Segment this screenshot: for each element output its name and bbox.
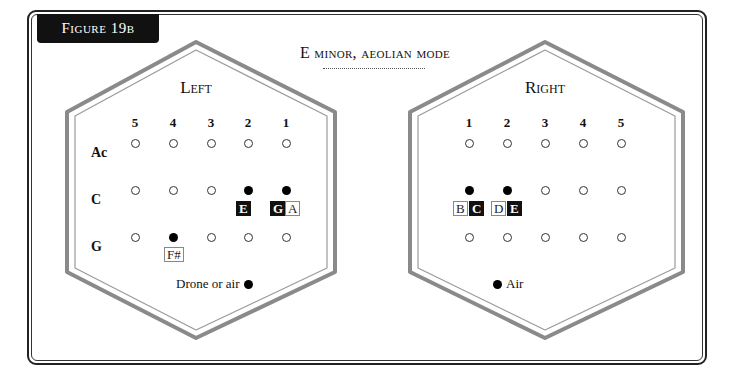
right-note-label: E	[507, 201, 522, 216]
left-hole-open	[169, 186, 178, 195]
drone-caption-text: Drone or air	[176, 276, 240, 292]
left-hole-open	[244, 139, 253, 148]
right-hole-open	[503, 233, 512, 242]
drone-dot-icon	[244, 280, 253, 289]
left-hole-closed	[282, 186, 291, 195]
right-column-number: 2	[497, 115, 517, 131]
left-row-label: Ac	[91, 145, 107, 161]
left-column-number: 2	[238, 115, 258, 131]
left-caption: Drone or air	[176, 276, 253, 292]
left-row-label: C	[91, 192, 101, 208]
right-hole-open	[503, 139, 512, 148]
right-hole-closed	[503, 186, 512, 195]
left-note-label: E	[236, 201, 251, 216]
right-column-number: 5	[611, 115, 631, 131]
left-row-label: G	[91, 239, 102, 255]
right-note-label: B	[453, 201, 468, 216]
right-hole-open	[617, 186, 626, 195]
right-hole-open	[617, 139, 626, 148]
right-column-number: 3	[535, 115, 555, 131]
figure-badge: Figure 19b	[37, 14, 159, 43]
left-column-number: 5	[125, 115, 145, 131]
right-hole-open	[579, 186, 588, 195]
right-column-number: 4	[573, 115, 593, 131]
left-column-number: 4	[163, 115, 183, 131]
right-hole-open	[541, 139, 550, 148]
left-note-label: F#	[164, 247, 184, 262]
title-underline	[323, 68, 425, 69]
right-hole-open	[541, 233, 550, 242]
left-hole-open	[169, 139, 178, 148]
right-hole-open	[465, 139, 474, 148]
right-note-label: C	[469, 201, 484, 216]
left-hole-open	[207, 233, 216, 242]
right-hole-open	[579, 139, 588, 148]
left-hole-open	[131, 186, 140, 195]
left-note-label: A	[285, 201, 300, 216]
right-note-label: D	[491, 201, 506, 216]
left-hole-open	[207, 139, 216, 148]
right-hole-open	[541, 186, 550, 195]
left-hole-open	[282, 233, 291, 242]
left-hole-open	[207, 186, 216, 195]
right-hole-open	[465, 233, 474, 242]
left-hole-open	[282, 139, 291, 148]
left-hole-open	[131, 233, 140, 242]
left-label: Left	[146, 78, 246, 98]
left-column-number: 1	[276, 115, 296, 131]
right-caption: Air	[493, 276, 523, 292]
left-column-number: 3	[201, 115, 221, 131]
right-column-number: 1	[459, 115, 479, 131]
left-note-label: G	[270, 201, 286, 216]
right-hole-closed	[465, 186, 474, 195]
left-hole-closed	[244, 186, 253, 195]
right-label: Right	[495, 78, 595, 98]
figure-title: E minor, aeolian mode	[300, 44, 450, 62]
right-hole-open	[579, 233, 588, 242]
left-hole-open	[131, 139, 140, 148]
air-dot-icon	[493, 280, 502, 289]
air-caption-text: Air	[506, 276, 523, 292]
left-hole-open	[244, 233, 253, 242]
left-hole-closed	[169, 233, 178, 242]
right-hole-open	[617, 233, 626, 242]
